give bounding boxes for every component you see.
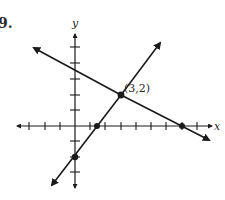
graph-canvas: 9.	[0, 0, 225, 200]
y-intercept-point	[72, 154, 78, 160]
intersection-label: (3,2)	[124, 82, 150, 95]
x-intercept-point-1	[94, 123, 100, 129]
line-positive-slope	[52, 43, 160, 185]
y-axis	[70, 34, 80, 188]
y-axis-label: y	[71, 17, 79, 30]
coordinate-graph: 9.	[0, 0, 225, 200]
x-intercept-point-2	[179, 123, 185, 129]
problem-number-label: 9.	[0, 15, 13, 31]
x-axis-label: x	[214, 120, 221, 133]
